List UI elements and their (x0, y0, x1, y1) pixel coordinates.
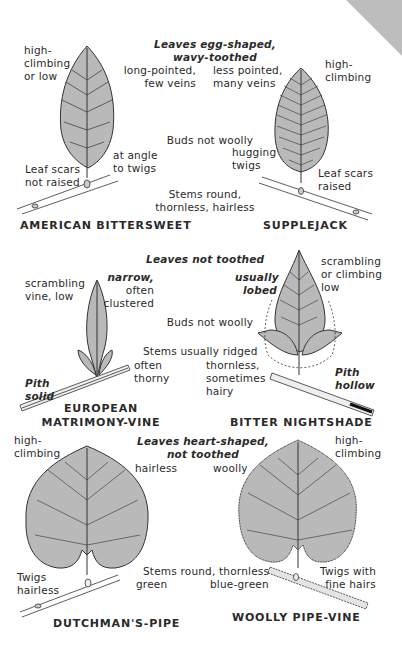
dutchmans-pipe-leaf-note: hairless (135, 462, 177, 475)
section2-heading: Leaves not toothed (146, 253, 264, 266)
nightshade-stems-note: thornless, sometimes hairy (206, 359, 266, 398)
supplejack-leaf-note: less pointed, many veins (213, 64, 283, 90)
species-european-matrimony-vine: EUROPEAN MATRIMONY-VINE (36, 402, 166, 430)
matrimony-vine-stems-note: often thorny (134, 359, 169, 385)
species-american-bittersweet: AMERICAN BITTERSWEET (20, 219, 191, 233)
section1-stems: Stems round, thornless, hairless (140, 188, 270, 214)
nightshade-pith: Pith hollow (335, 366, 375, 392)
bittersweet-scars: Leaf scars not raised (25, 163, 80, 189)
bittersweet-habit: high- climbing or low (24, 44, 70, 83)
section1-heading: Leaves egg-shaped, wavy-toothed (145, 38, 285, 64)
nightshade-leaf-bold: usually lobed (235, 271, 277, 297)
section3-stems: Stems round, thornless (143, 565, 269, 578)
dutchmans-pipe-twigs: Twigs hairless (17, 571, 59, 597)
woolly-pipe-vine-stem-color: blue-green (210, 578, 269, 591)
nightshade-habit: scrambling or climbing low (321, 255, 382, 294)
species-supplejack: SUPPLEJACK (263, 219, 348, 233)
matrimony-vine-leaf-bold: narrow, (100, 271, 154, 284)
supplejack-habit: high- climbing (325, 58, 371, 84)
matrimony-vine-pith: Pith solid (25, 377, 54, 403)
dutchmans-pipe-habit: high- climbing (14, 434, 60, 460)
section2-stems: Stems usually ridged (143, 345, 258, 358)
woolly-pipe-vine-twigs: Twigs with fine hairs (300, 565, 376, 591)
supplejack-buds-note: hugging twigs (232, 146, 276, 172)
woolly-pipe-vine-habit: high- climbing (335, 434, 381, 460)
bittersweet-leaf-note: long-pointed, few veins (110, 64, 196, 90)
species-dutchmans-pipe: DUTCHMAN'S-PIPE (53, 617, 180, 631)
dutchmans-pipe-leaf-icon (26, 446, 148, 575)
species-bitter-nightshade: BITTER NIGHTSHADE (230, 416, 372, 430)
bittersweet-buds-note: at angle to twigs (113, 149, 158, 175)
woolly-pipe-vine-leaf-note: woolly (213, 462, 248, 475)
matrimony-vine-habit: scrambling vine, low (25, 277, 85, 303)
supplejack-scars: Leaf scars raised (318, 167, 373, 193)
section2-buds: Buds not woolly (150, 316, 270, 329)
matrimony-vine-leaf-note: often clustered (100, 284, 154, 310)
supplejack-leaf-icon (275, 68, 328, 183)
section3-heading: Leaves heart-shaped, not toothed (133, 435, 273, 461)
dutchmans-pipe-stem-color: green (136, 578, 167, 591)
species-woolly-pipe-vine: WOOLLY PIPE-VINE (232, 611, 361, 625)
